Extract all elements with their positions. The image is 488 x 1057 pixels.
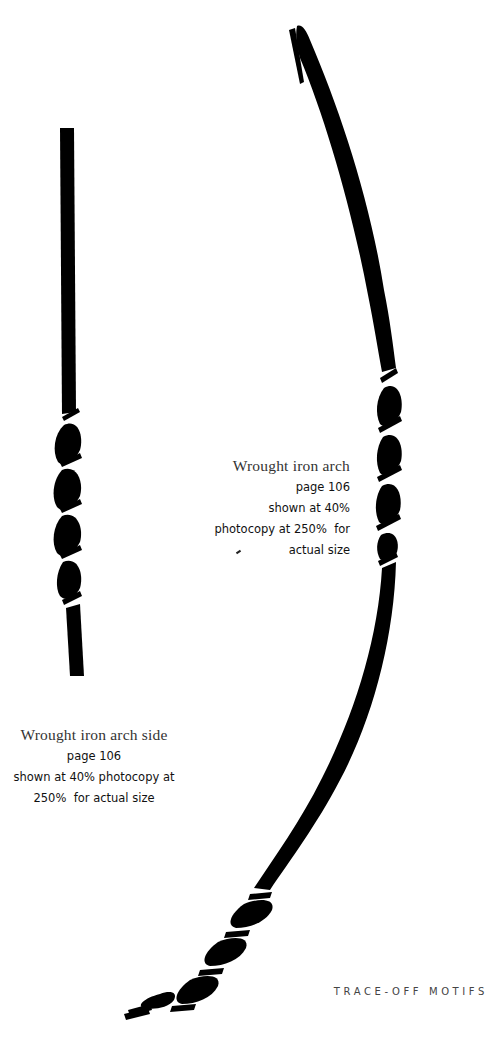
caption-wrought-iron-arch: Wrought iron arch page 106 shown at 40% … bbox=[200, 455, 350, 561]
caption-actual-size: actual size bbox=[200, 540, 350, 561]
caption-actual-size: 250% for actual size bbox=[0, 788, 188, 809]
caption-page-ref: page 106 bbox=[200, 477, 350, 498]
caption-scale: shown at 40% photocopy at bbox=[0, 767, 188, 788]
caption-page-ref: page 106 bbox=[0, 746, 188, 767]
caption-scale: shown at 40% bbox=[200, 498, 350, 519]
caption-title: Wrought iron arch side bbox=[0, 724, 188, 746]
wrought-iron-bar-icon bbox=[54, 128, 84, 676]
book-page: Wrought iron arch page 106 shown at 40% … bbox=[0, 0, 488, 1057]
caption-title: Wrought iron arch bbox=[200, 455, 350, 477]
caption-wrought-iron-arch-side: Wrought iron arch side page 106 shown at… bbox=[0, 724, 188, 809]
running-footer: TRACE-OFF MOTIFS bbox=[288, 986, 488, 997]
caption-photocopy: photocopy at 250% for bbox=[200, 519, 350, 540]
